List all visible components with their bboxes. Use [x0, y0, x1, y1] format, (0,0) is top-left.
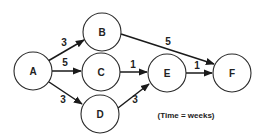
- node-f: F: [213, 54, 251, 92]
- edge-e-f-weight: 1: [194, 60, 200, 71]
- edge-d-e-weight: 3: [132, 94, 138, 105]
- node-b: B: [83, 13, 121, 51]
- edge-a-d-weight: 3: [60, 94, 66, 105]
- node-f-label: F: [229, 68, 235, 79]
- node-e-label: E: [164, 68, 171, 79]
- node-e: E: [148, 54, 186, 92]
- node-d-label: D: [96, 109, 103, 120]
- edge-a-c-weight: 5: [62, 57, 68, 68]
- node-c-label: C: [97, 67, 104, 78]
- network-diagram: 3 5 3 5 1 3 1 A B C D E F: [0, 0, 265, 140]
- node-a: A: [14, 52, 52, 90]
- edge-a-b-weight: 3: [61, 37, 67, 48]
- node-b-label: B: [98, 27, 105, 38]
- edge-c-e-weight: 1: [130, 59, 136, 70]
- node-c: C: [82, 53, 120, 91]
- caption: (Time = weeks): [158, 111, 215, 120]
- edge-b-f-weight: 5: [165, 36, 171, 47]
- node-a-label: A: [29, 66, 36, 77]
- node-d: D: [81, 95, 119, 133]
